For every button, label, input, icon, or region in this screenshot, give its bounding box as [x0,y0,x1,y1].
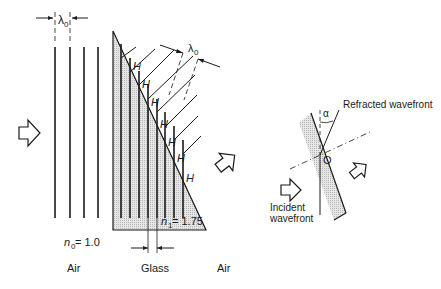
svg-text:H: H [186,172,194,184]
incident-arrow-small-icon [281,179,301,201]
svg-text:= 1.75: = 1.75 [172,215,203,227]
svg-text:H: H [133,60,141,72]
svg-text:H: H [168,136,176,148]
svg-text:0: 0 [64,20,69,29]
glass-prism [113,31,206,230]
lambda-dimension-top: λ 0 [36,12,88,44]
svg-text:0: 0 [194,48,199,57]
region-label-air-right: Air [217,262,231,274]
svg-text:H: H [177,152,185,164]
angle-arc [320,121,333,123]
svg-text:H: H [160,118,168,130]
angle-alpha-label: α [323,108,329,119]
glass-slab [299,113,346,220]
incident-arrow-icon [19,120,40,146]
n0-label: n 0 = 1.0 [64,236,100,251]
refracted-wavefront-label: Refracted wavefront [343,99,433,110]
region-label-air-left: Air [67,262,81,274]
svg-text:n: n [161,215,167,227]
incident-wavefront-label-line2: wavefront [269,213,314,224]
svg-text:H: H [151,96,159,108]
point-o-label: O [323,154,332,166]
svg-text:n: n [64,236,70,248]
refracted-arrow-icon [211,147,241,177]
incident-wavefront-label-line1: Incident [270,202,305,213]
refracted-arrow-small-icon [346,157,371,182]
refraction-diagram: λ 0 n 0 = 1.0 [0,0,441,289]
lambda-dimension-tilted: λ 0 [160,42,220,100]
region-label-glass: Glass [141,262,170,274]
svg-text:= 1.0: = 1.0 [75,236,100,248]
air-wavefronts [55,47,98,218]
svg-text:H: H [142,78,150,90]
